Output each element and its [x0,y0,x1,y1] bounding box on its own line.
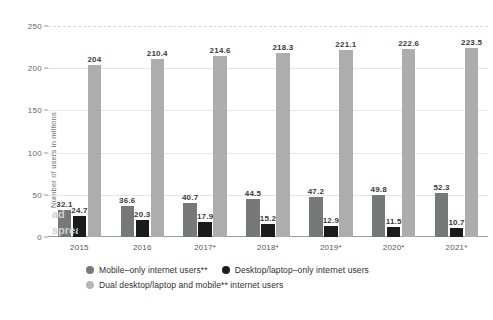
legend-item-label: Mobile–only internet users** [99,265,208,275]
bar-value-label: 49.8 [371,185,387,194]
bar[interactable]: 210.4 [151,59,165,237]
bar-value-label: 36.6 [119,196,135,205]
bar[interactable]: 52.3 [435,193,449,237]
bar-value-label: 17.9 [197,212,213,221]
bar-value-label: 214.6 [210,46,231,55]
bar[interactable]: 222.6 [402,49,416,237]
bar-value-label: 44.5 [245,189,261,198]
bar-value-label: 221.1 [335,40,356,49]
bar-value-label: 24.7 [71,206,87,215]
bar-value-label: 223.5 [461,38,482,47]
bar-value-label: 210.4 [147,49,168,58]
bar[interactable]: 47.2 [309,197,323,237]
bar[interactable]: 221.1 [339,50,353,237]
bar-value-label: 15.2 [260,214,276,223]
legend-row-1: Mobile–only internet users**Desktop/lapt… [0,262,493,277]
legend-item-label: Desktop/laptop–only internet users [235,265,369,275]
bar[interactable]: 10.7 [450,228,464,237]
bar[interactable]: 223.5 [465,48,479,237]
bar[interactable]: 20.3 [136,220,150,237]
y-axis-tick-label: 50 [33,190,43,199]
legend-item[interactable]: Desktop/laptop–only internet users [222,265,369,275]
bar[interactable]: 11.5 [387,227,401,237]
legend-item-label: Dual desktop/laptop and mobile** interne… [99,280,283,290]
bar-group: 47.212.9221.12019* [299,26,362,237]
bar[interactable]: 214.6 [213,56,227,237]
legend-item[interactable]: Mobile–only internet users** [86,265,208,275]
y-axis-tick-label: 0 [37,233,42,242]
x-axis-tick-label: 2017* [194,243,216,252]
bar-group: 49.811.5222.62020* [362,26,425,237]
x-axis-tick-label: 2015 [70,243,89,252]
plot-area: 05010015020025032.124.7204201536.620.321… [48,26,488,237]
legend-swatch-icon [86,266,94,274]
y-axis-tick-label: 200 [28,64,42,73]
bar[interactable]: 15.2 [261,224,275,237]
bar-value-label: 40.7 [182,193,198,202]
legend-row-2: Dual desktop/laptop and mobile** interne… [0,277,493,292]
bar-value-label: 12.9 [323,216,339,225]
legend-item[interactable]: Dual desktop/laptop and mobile** interne… [86,280,283,290]
x-axis-tick-label: 2018* [257,243,279,252]
bar-value-label: 204 [87,55,101,64]
bar[interactable]: 36.6 [121,206,135,237]
bar[interactable]: 218.3 [276,53,290,237]
bar[interactable]: 17.9 [198,222,212,237]
bar-value-label: 20.3 [134,210,150,219]
bar-value-label: 32.1 [56,200,72,209]
bar[interactable]: 204 [88,65,102,237]
chart-legend: Mobile–only internet users**Desktop/lapt… [0,262,493,292]
bar[interactable]: 44.5 [246,199,260,237]
bar-group: 44.515.2218.32018* [237,26,300,237]
x-axis-tick-label: 2019* [320,243,342,252]
bar-chart: Number of users in millions 050100150200… [0,0,493,320]
bar-value-label: 11.5 [386,217,402,226]
bar-group: 40.717.9214.62017* [174,26,237,237]
x-axis-tick-label: 2020* [383,243,405,252]
bar-value-label: 47.2 [308,187,324,196]
bar-group: 52.310.7223.52021* [425,26,488,237]
bar[interactable]: 12.9 [324,226,338,237]
y-axis-tick-label: 150 [28,106,42,115]
bar-value-label: 10.7 [448,218,464,227]
bar[interactable]: 40.7 [183,203,197,237]
bar-value-label: 222.6 [398,39,419,48]
y-axis-tick-label: 250 [28,22,42,31]
bar[interactable]: 49.8 [372,195,386,237]
bar-value-label: 218.3 [272,43,293,52]
bar[interactable]: 24.7 [73,216,87,237]
x-axis-tick-label: 2016 [133,243,152,252]
bar-group: 36.620.3210.42016 [111,26,174,237]
bar-value-label: 52.3 [433,183,449,192]
legend-swatch-icon [86,281,94,289]
bar[interactable]: 32.1 [58,210,72,237]
x-axis-tick-label: 2021* [446,243,468,252]
bar-group: 32.124.72042015 [48,26,111,237]
legend-swatch-icon [222,266,230,274]
y-axis-tick-label: 100 [28,148,42,157]
